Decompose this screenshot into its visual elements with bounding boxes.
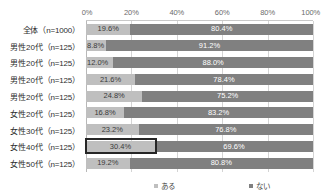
bar-value-label: 75.2% xyxy=(217,92,238,100)
bar-value-label: 12.0% xyxy=(87,59,108,67)
bar-value-label: 76.8% xyxy=(215,126,236,134)
x-tick-label: 80% xyxy=(260,8,275,17)
bar-segment-ない: 80.4% xyxy=(130,24,313,35)
x-axis-tick-labels: 0%20%40%60%80%100% xyxy=(86,8,313,20)
category-label: 女性40代（n=125） xyxy=(10,138,80,155)
bar-rows: 19.6%80.4%8.8%91.2%12.0%88.0%21.6%78.4%2… xyxy=(86,21,313,172)
category-label: 全体（n=1000） xyxy=(23,21,80,38)
bar-row: 19.6%80.4% xyxy=(86,21,313,38)
category-label: 女性30代（n=125） xyxy=(10,122,80,139)
bar-value-label: 80.8% xyxy=(211,159,232,167)
bar-segment-ある: 8.8% xyxy=(86,40,106,51)
category-label: 男性20代（n=125） xyxy=(10,71,80,88)
bar-row: 16.8%83.2% xyxy=(86,105,313,122)
bar-segment-ある: 19.2% xyxy=(86,158,130,169)
x-tick-label: 40% xyxy=(169,8,184,17)
legend-item[interactable]: ない xyxy=(249,180,270,191)
gridline xyxy=(313,21,314,172)
legend-label: ある xyxy=(161,180,175,191)
bar-value-label: 88.0% xyxy=(202,59,223,67)
bar-segment-ない: 75.2% xyxy=(142,91,313,102)
category-label: 女性20代（n=125） xyxy=(10,105,80,122)
bar-value-label: 16.8% xyxy=(94,109,115,117)
bar-row: 12.0%88.0% xyxy=(86,55,313,72)
bar-segment-ある: 30.4% xyxy=(86,141,155,152)
x-tick-label: 20% xyxy=(124,8,139,17)
x-tick-label: 100% xyxy=(301,8,320,17)
bar-row: 19.2%80.8% xyxy=(86,155,313,172)
bar-row: 21.6%78.4% xyxy=(86,71,313,88)
category-label: 男性20代（n=125） xyxy=(10,55,80,72)
stacked-bar: 30.4%69.6% xyxy=(86,141,313,152)
legend-label: ない xyxy=(256,180,270,191)
bar-value-label: 8.8% xyxy=(87,42,104,50)
legend-swatch-icon xyxy=(154,184,158,188)
legend-swatch-icon xyxy=(249,184,253,188)
plot-area: 19.6%80.4%8.8%91.2%12.0%88.0%21.6%78.4%2… xyxy=(86,21,313,172)
stacked-bar-chart: 0%20%40%60%80%100% 全体（n=1000）男性20代（n=125… xyxy=(0,0,329,195)
bar-value-label: 23.2% xyxy=(102,126,123,134)
category-label: 女性50代（n=125） xyxy=(10,155,80,172)
stacked-bar: 21.6%78.4% xyxy=(86,74,313,85)
bar-value-label: 21.6% xyxy=(100,76,121,84)
bar-value-label: 24.8% xyxy=(104,92,125,100)
bar-segment-ある: 21.6% xyxy=(86,74,135,85)
stacked-bar: 8.8%91.2% xyxy=(86,40,313,51)
bar-segment-ない: 78.4% xyxy=(135,74,313,85)
stacked-bar: 16.8%83.2% xyxy=(86,107,313,118)
category-label: 男性20代（n=125） xyxy=(10,38,80,55)
bar-value-label: 91.2% xyxy=(199,42,220,50)
bar-segment-ある: 24.8% xyxy=(86,91,142,102)
bar-value-label: 19.2% xyxy=(97,159,118,167)
stacked-bar: 12.0%88.0% xyxy=(86,57,313,68)
category-label: 男性20代（n=125） xyxy=(10,88,80,105)
x-tick-label: 60% xyxy=(215,8,230,17)
bar-row: 24.8%75.2% xyxy=(86,88,313,105)
legend-item[interactable]: ある xyxy=(154,180,175,191)
bar-row: 23.2%76.8% xyxy=(86,122,313,139)
stacked-bar: 19.6%80.4% xyxy=(86,24,313,35)
y-axis-category-labels: 全体（n=1000）男性20代（n=125）男性20代（n=125）男性20代（… xyxy=(0,21,83,172)
bar-value-label: 69.6% xyxy=(223,143,244,151)
bar-row: 30.4%69.6% xyxy=(86,138,313,155)
bar-segment-ある: 23.2% xyxy=(86,124,139,135)
bar-value-label: 19.6% xyxy=(98,25,119,33)
bar-segment-ない: 69.6% xyxy=(155,141,313,152)
stacked-bar: 23.2%76.8% xyxy=(86,124,313,135)
bar-segment-ない: 88.0% xyxy=(113,57,313,68)
stacked-bar: 19.2%80.8% xyxy=(86,158,313,169)
bar-segment-ない: 83.2% xyxy=(124,107,313,118)
bar-segment-ある: 19.6% xyxy=(86,24,130,35)
bar-row: 8.8%91.2% xyxy=(86,38,313,55)
bar-segment-ない: 76.8% xyxy=(139,124,313,135)
bar-value-label: 80.4% xyxy=(211,25,232,33)
bar-value-label: 30.4% xyxy=(110,143,131,151)
bar-segment-ない: 80.8% xyxy=(130,158,313,169)
bar-value-label: 78.4% xyxy=(213,76,234,84)
chart-legend: あるない xyxy=(86,180,313,192)
bar-segment-ない: 91.2% xyxy=(106,40,313,51)
bar-segment-ある: 12.0% xyxy=(86,57,113,68)
x-tick-label: 0% xyxy=(82,8,93,17)
bar-segment-ある: 16.8% xyxy=(86,107,124,118)
bar-value-label: 83.2% xyxy=(208,109,229,117)
stacked-bar: 24.8%75.2% xyxy=(86,91,313,102)
